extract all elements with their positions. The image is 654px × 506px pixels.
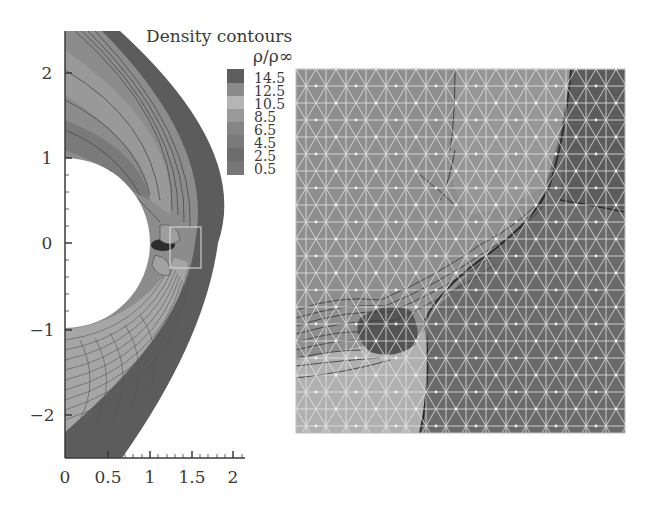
right-zoom-plot — [296, 69, 625, 433]
density-contour-figure: 2 1 0 −1 −2 0 0.5 1 1.5 2 Density contou… — [0, 0, 654, 506]
x-tick-label: 1.5 — [178, 467, 205, 487]
x-tick-label: 0.5 — [94, 467, 121, 487]
colorbar — [227, 69, 244, 175]
y-tick-label: −1 — [29, 320, 54, 340]
legend-title: Density contours — [146, 26, 292, 46]
x-tick-label: 2 — [228, 467, 239, 487]
triangular-mesh — [296, 69, 625, 433]
y-tick-label: 0 — [42, 233, 53, 253]
y-tick-label: 1 — [42, 148, 53, 168]
left-contour-plot — [0, 31, 224, 458]
y-tick-label: 2 — [42, 63, 53, 83]
x-tick-label: 0 — [60, 467, 71, 487]
x-tick-labels: 0 0.5 1 1.5 2 — [60, 467, 239, 487]
x-tick-label: 1 — [145, 467, 156, 487]
y-tick-label: −2 — [29, 405, 54, 425]
y-tick-labels: 2 1 0 −1 −2 — [29, 63, 54, 425]
legend-level: 0.5 — [254, 161, 276, 177]
legend-subtitle: ρ/ρ∞ — [253, 46, 293, 66]
